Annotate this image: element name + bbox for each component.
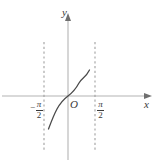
fraction-denominator: 2	[36, 111, 43, 120]
fraction-half-pi-left: π 2	[36, 100, 43, 120]
y-axis	[65, 13, 71, 160]
origin-label: O	[70, 99, 78, 110]
y-axis-label: y	[62, 7, 67, 18]
fraction-numerator: π	[36, 100, 43, 109]
fraction-half-pi-right: π 2	[97, 100, 104, 120]
xtick-label-positive-half-pi: π 2	[97, 100, 104, 120]
fraction-numerator: π	[97, 100, 104, 109]
graph-canvas	[0, 0, 162, 167]
xtick-label-negative-half-pi: − π 2	[30, 100, 43, 120]
x-axis-label: x	[144, 99, 149, 110]
tangent-function-figure: y x O − π 2 π 2	[0, 0, 162, 167]
tangent-curve	[49, 70, 90, 129]
fraction-denominator: 2	[97, 111, 104, 120]
